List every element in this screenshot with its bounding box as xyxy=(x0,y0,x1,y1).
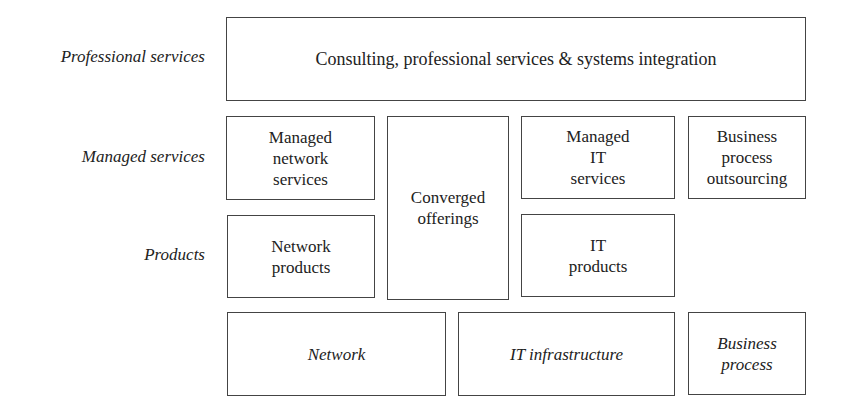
box-it-infrastructure: IT infrastructure xyxy=(458,312,675,396)
box-consulting-label: Consulting, professional services & syst… xyxy=(316,49,717,70)
box-consulting: Consulting, professional services & syst… xyxy=(226,17,806,101)
box-managed-network-services: Managed network services xyxy=(226,116,375,200)
box-converged-offerings-label: Converged offerings xyxy=(411,187,485,229)
box-managed-it-services-label: Managed IT services xyxy=(566,126,629,189)
box-network: Network xyxy=(227,312,446,396)
row-label-professional-services: Professional services xyxy=(61,47,205,67)
box-managed-network-services-label: Managed network services xyxy=(269,127,332,190)
box-converged-offerings: Converged offerings xyxy=(387,116,509,300)
box-business-process-outsourcing: Business process outsourcing xyxy=(688,116,806,199)
box-business-process-label: Business process xyxy=(717,333,777,375)
row-label-products: Products xyxy=(144,245,205,265)
box-managed-it-services: Managed IT services xyxy=(521,116,675,199)
box-network-label: Network xyxy=(308,344,366,365)
row-label-managed-services: Managed services xyxy=(82,147,205,167)
box-business-process-outsourcing-label: Business process outsourcing xyxy=(707,126,787,189)
box-it-infrastructure-label: IT infrastructure xyxy=(510,344,623,365)
box-business-process: Business process xyxy=(688,312,806,395)
box-network-products-label: Network products xyxy=(271,236,330,278)
box-network-products: Network products xyxy=(227,215,375,298)
box-it-products: IT products xyxy=(521,214,675,297)
box-it-products-label: IT products xyxy=(569,235,628,277)
